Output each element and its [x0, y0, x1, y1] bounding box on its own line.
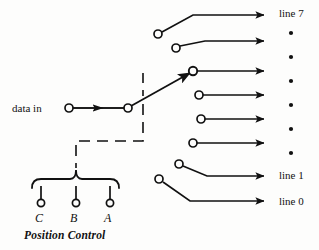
- wiper-arm[interactable]: [131, 73, 190, 106]
- position-control-group: [32, 170, 119, 207]
- wiper-arm-group[interactable]: [131, 73, 190, 106]
- output-wire-line-6: [180, 41, 264, 46]
- outputs-group: [154, 15, 264, 201]
- output-terminal-line-3[interactable]: [197, 115, 205, 123]
- select-terminal-c[interactable]: [37, 199, 44, 206]
- output-terminal-line-5[interactable]: [189, 67, 197, 75]
- output-label-line-1: line 1: [279, 170, 304, 181]
- demultiplexer-diagram: data in line 7 line 1 line 0 C B A Posit…: [0, 0, 319, 250]
- select-terminal-b[interactable]: [72, 199, 79, 206]
- select-terminal-a[interactable]: [106, 199, 113, 206]
- output-wire-line-0: [163, 182, 264, 201]
- data-in-terminal[interactable]: [65, 104, 73, 112]
- select-brace: [32, 170, 119, 188]
- output-terminal-line-1[interactable]: [175, 160, 183, 168]
- control-dashed-link: [76, 104, 143, 168]
- output-terminal-line-2[interactable]: [189, 139, 197, 147]
- output-terminal-line-4[interactable]: [195, 91, 203, 99]
- select-label-c: C: [35, 212, 43, 224]
- figure-caption: Position Control: [24, 230, 106, 242]
- output-terminal-line-7[interactable]: [154, 30, 162, 38]
- output-terminal-line-0[interactable]: [155, 175, 163, 183]
- select-label-a: A: [104, 212, 111, 224]
- control-linkage-group: [76, 73, 143, 168]
- select-label-b: B: [70, 212, 77, 224]
- data-in-wire-group: [65, 104, 132, 112]
- output-wire-line-1: [183, 166, 264, 176]
- data-in-label: data in: [12, 103, 42, 114]
- output-wire-line-7: [162, 15, 264, 32]
- output-terminal-line-6[interactable]: [172, 44, 180, 52]
- vertical-dots-icon: [289, 31, 293, 155]
- diagram-canvas: [0, 0, 319, 250]
- output-label-line-7: line 7: [279, 8, 304, 19]
- output-label-line-0: line 0: [279, 196, 304, 207]
